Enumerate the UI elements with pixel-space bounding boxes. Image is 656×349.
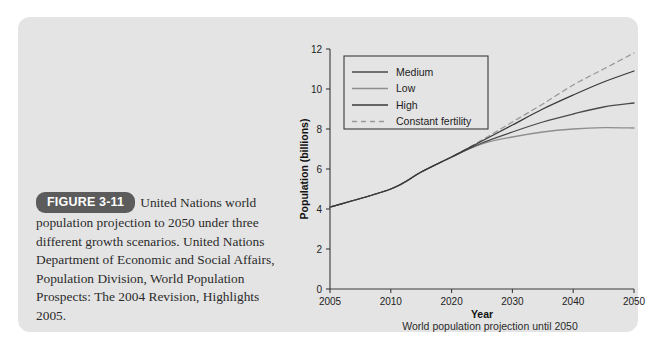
x-tick-label: 2040	[562, 296, 585, 307]
population-projection-chart: 024681012 200520102020203020402050 Popul…	[294, 37, 650, 337]
y-tick-label: 0	[316, 284, 322, 295]
y-axis-title: Population (billions)	[298, 119, 310, 220]
x-axis-ticks	[330, 289, 634, 293]
series-line-medium	[330, 103, 634, 207]
figure-panel: FIGURE 3-11United Nations world populati…	[18, 17, 638, 332]
y-tick-label: 6	[316, 164, 322, 175]
series-line-high	[330, 71, 634, 207]
figure-caption-text: United Nations world population projecti…	[36, 195, 274, 323]
y-axis-ticks	[326, 49, 330, 289]
y-axis-tick-labels: 024681012	[311, 44, 323, 295]
y-tick-label: 2	[316, 244, 322, 255]
y-tick-label: 8	[316, 124, 322, 135]
x-axis-tick-labels: 200520102020203020402050	[319, 296, 646, 307]
figure-caption-block: FIGURE 3-11United Nations world populati…	[36, 192, 286, 325]
y-tick-label: 4	[316, 204, 322, 215]
chart-subcaption: World population projection until 2050	[330, 320, 650, 332]
series-line-constant-fertility	[330, 53, 634, 207]
chart-axes	[330, 49, 634, 289]
x-tick-label: 2050	[623, 296, 646, 307]
legend-label-low: Low	[396, 82, 416, 94]
legend-label-constant-fertility: Constant fertility	[396, 115, 472, 127]
figure-number-badge: FIGURE 3-11	[36, 192, 135, 213]
chart-svg: 024681012 200520102020203020402050 Popul…	[294, 37, 650, 337]
chart-legend: MediumLowHighConstant fertility	[344, 56, 488, 129]
x-axis-title: Year	[471, 308, 493, 320]
chart-series-lines	[330, 53, 634, 207]
x-tick-label: 2030	[501, 296, 524, 307]
y-tick-label: 10	[311, 84, 323, 95]
x-tick-label: 2005	[319, 296, 342, 307]
x-tick-label: 2020	[440, 296, 463, 307]
legend-label-medium: Medium	[396, 66, 434, 78]
legend-entries: MediumLowHighConstant fertility	[352, 66, 472, 128]
x-tick-label: 2010	[380, 296, 403, 307]
legend-label-high: High	[396, 99, 418, 111]
y-tick-label: 12	[311, 44, 323, 55]
